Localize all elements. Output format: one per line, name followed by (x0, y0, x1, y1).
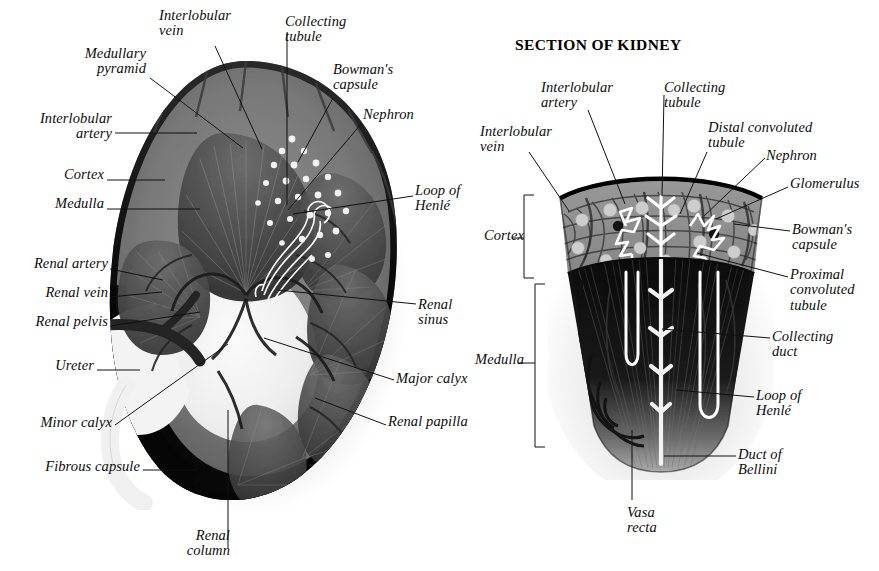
label-nephron: Nephron (363, 107, 453, 122)
label-duct-of-bellini: Duct of Bellini (738, 447, 838, 478)
label-proximal-convoluted-tubule: Proximal convoluted tubule (790, 267, 879, 313)
label-collecting-duct: Collecting duct (772, 329, 876, 360)
label-interlobular-artery-right: Interlobular artery (541, 80, 661, 111)
bracket-cortex-right (524, 195, 534, 278)
label-nephron-right: Nephron (766, 148, 862, 163)
label-glomerulus: Glomerulus (790, 176, 879, 191)
label-bowmans-capsule-right: Bowman's capsule (792, 222, 879, 253)
label-vasa-recta: Vasa recta (627, 505, 707, 536)
label-medulla-right: Medulla (424, 352, 524, 367)
label-renal-pelvis: Renal pelvis (0, 314, 108, 329)
label-major-calyx: Major calyx (396, 371, 506, 386)
label-collecting-tubule-right: Collecting tubule (664, 80, 774, 111)
label-loop-of-henle-left: Loop of Henlé (415, 183, 515, 214)
label-fibrous-capsule: Fibrous capsule (0, 459, 140, 474)
label-interlobular-vein: Interlobular vein (159, 8, 279, 39)
label-renal-column: Renal column (120, 528, 230, 559)
label-renal-sinus: Renal sinus (418, 297, 508, 328)
label-interlobular-vein-right: Interlobular vein (480, 124, 598, 155)
label-renal-papilla: Renal papilla (388, 414, 506, 429)
label-medullary-pyramid: Medullary pyramid (0, 46, 146, 77)
whole-kidney-illustration (96, 55, 406, 510)
label-renal-vein: Renal vein (0, 285, 108, 300)
label-loop-of-henle-right: Loop of Henlé (756, 388, 856, 419)
label-collecting-tubule: Collecting tubule (285, 14, 395, 45)
label-minor-calyx: Minor calyx (0, 415, 112, 430)
label-cortex-right: Cortex (432, 228, 524, 243)
section-of-kidney-title: SECTION OF KIDNEY (515, 36, 681, 54)
label-cortex-left: Cortex (0, 167, 104, 182)
label-bowmans-capsule: Bowman's capsule (333, 62, 443, 93)
kidney-anatomy-figure: SECTION OF KIDNEY Medullary pyramid Inte… (0, 0, 879, 571)
label-interlobular-artery: Interlobular artery (0, 111, 112, 142)
label-renal-artery: Renal artery (0, 256, 108, 271)
bracket-medulla-right (535, 284, 545, 447)
kidney-wedge-illustration (548, 168, 774, 480)
label-medulla-left: Medulla (0, 196, 104, 211)
label-ureter: Ureter (0, 358, 94, 373)
